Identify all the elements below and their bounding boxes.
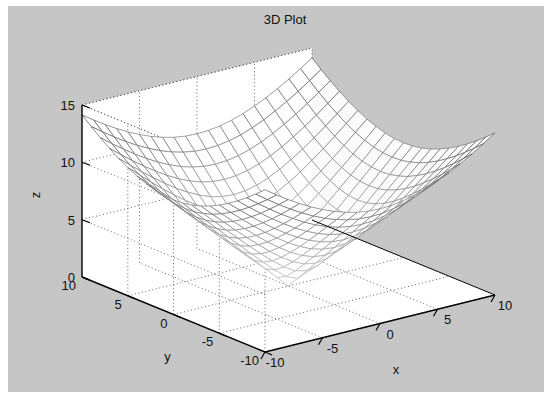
z-axis-label: z — [28, 192, 43, 199]
plot-root: 0510151050-5-10-10-50510zyx3D Plot — [28, 12, 512, 377]
y-tick-label: 0 — [160, 316, 167, 331]
x-tick-label: -10 — [266, 355, 285, 370]
z-tick-label: 15 — [61, 98, 75, 113]
z-tick-label: 10 — [61, 155, 75, 170]
figure-canvas: 0510151050-5-10-10-50510zyx3D Plot — [8, 6, 544, 392]
x-axis-label: x — [393, 362, 400, 377]
x-tick-mark — [261, 352, 265, 359]
y-tick-label: -5 — [202, 334, 214, 349]
y-axis-label: y — [164, 349, 171, 364]
x-tick-label: 5 — [444, 312, 451, 327]
y-tick-label: 5 — [115, 297, 122, 312]
plot-title: 3D Plot — [264, 12, 307, 27]
y-tick-label: 10 — [62, 278, 76, 293]
z-tick-label: 5 — [68, 213, 75, 228]
x-tick-label: 0 — [386, 327, 393, 342]
y-tick-label: -10 — [240, 353, 259, 368]
x-tick-label: -5 — [327, 341, 339, 356]
3d-plot-svg: 0510151050-5-10-10-50510zyx3D Plot — [8, 6, 544, 392]
x-tick-label: 10 — [498, 298, 512, 313]
